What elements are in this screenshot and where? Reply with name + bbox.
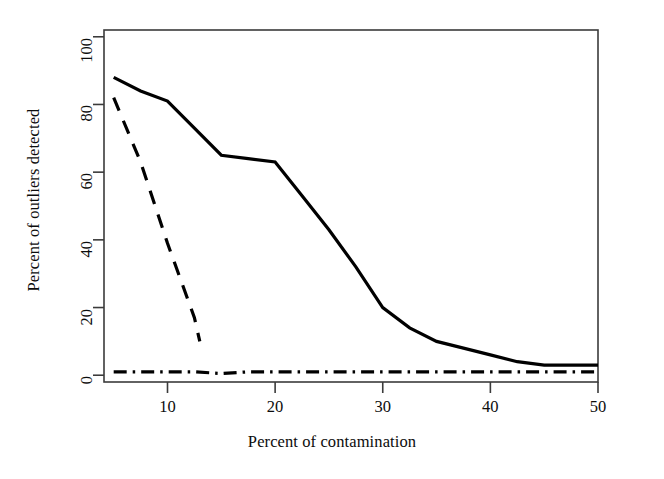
series-line-solid [114, 77, 598, 365]
y-axis-label-wrap: Percent of outliers detected [0, 0, 64, 400]
data-series-group [114, 77, 598, 373]
x-axis-label: Percent of contamination [0, 432, 664, 452]
x-tick-label: 30 [358, 397, 408, 417]
axis-box [104, 30, 598, 382]
y-tick-label: 60 [77, 173, 97, 213]
series-line-dashed [114, 98, 200, 342]
x-tick-label: 40 [465, 397, 515, 417]
chart-plot-area [0, 0, 664, 479]
y-axis-label: Percent of outliers detected [24, 60, 44, 340]
y-tick-label: 20 [77, 309, 97, 349]
x-tick-label: 20 [250, 397, 300, 417]
figure-canvas: 1020304050 020406080100 Percent of outli… [0, 0, 664, 479]
x-axis-ticks [167, 382, 598, 393]
y-tick-label: 0 [77, 376, 97, 416]
series-line-dot-dash [114, 372, 598, 374]
y-tick-label: 40 [77, 241, 97, 281]
x-tick-label: 10 [142, 397, 192, 417]
y-tick-label: 80 [77, 105, 97, 145]
y-tick-label: 100 [77, 38, 97, 78]
x-tick-label: 50 [573, 397, 623, 417]
